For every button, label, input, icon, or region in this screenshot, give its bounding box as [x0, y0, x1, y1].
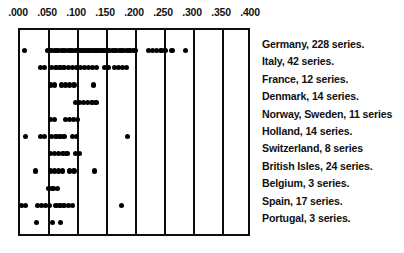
data-point	[42, 134, 47, 139]
dot-row	[20, 168, 248, 175]
data-point	[93, 100, 98, 105]
data-point	[77, 151, 82, 156]
data-point	[119, 203, 124, 208]
legend-item: Holland, 14 series.	[262, 125, 352, 137]
legend-item: Switzerland, 8 series	[262, 142, 363, 154]
data-point	[47, 203, 52, 208]
data-point	[55, 186, 60, 191]
data-point	[64, 151, 69, 156]
data-point	[50, 220, 55, 225]
x-axis-tick-label: .000	[8, 6, 28, 18]
legend-item: Italy, 42 series.	[262, 55, 334, 67]
x-axis-tick-label: .150	[95, 6, 115, 18]
data-point	[23, 134, 28, 139]
data-point	[22, 48, 27, 53]
legend-item: Belgium, 3 series.	[262, 177, 349, 189]
data-point	[58, 220, 63, 225]
dot-row	[20, 220, 248, 227]
data-point	[70, 203, 75, 208]
data-point	[52, 117, 57, 122]
data-point	[61, 134, 66, 139]
x-axis-tick-label: .250	[153, 6, 173, 18]
legend-item: Germany, 228 series.	[262, 38, 364, 50]
data-point	[94, 65, 99, 70]
dot-row	[20, 82, 248, 89]
x-axis-tick-label: .050	[37, 6, 57, 18]
legend-item: Portugal, 3 series.	[262, 212, 350, 224]
data-point	[52, 82, 57, 87]
data-point	[162, 48, 167, 53]
dot-row	[20, 186, 248, 193]
legend-item: British Isles, 24 series.	[262, 160, 373, 172]
x-axis-tick-labels: .000.050.100.150.200.250.300.350.400	[0, 6, 404, 22]
data-point	[169, 48, 174, 53]
dot-row	[20, 151, 248, 158]
x-axis-tick-label: .300	[182, 6, 202, 18]
legend-item: Denmark, 14 series.	[262, 90, 359, 102]
dot-row	[20, 65, 248, 72]
x-axis-tick-label: .400	[240, 6, 260, 18]
data-point	[60, 168, 65, 173]
data-point	[71, 168, 76, 173]
data-point	[125, 134, 130, 139]
x-axis-tick-label: .350	[211, 6, 231, 18]
data-point	[33, 168, 38, 173]
data-point	[124, 65, 129, 70]
data-point	[183, 48, 188, 53]
data-point	[92, 168, 97, 173]
data-point	[71, 82, 76, 87]
dot-row	[20, 117, 248, 124]
legend-item: Norway, Sweden, 11 series	[262, 108, 392, 120]
dot-row	[20, 134, 248, 141]
legend-item: France, 12 series.	[262, 73, 348, 85]
plot-frame	[18, 28, 250, 236]
data-point	[23, 203, 28, 208]
legend-item: Spain, 17 series.	[262, 195, 342, 207]
data-point	[91, 82, 96, 87]
data-point	[133, 48, 138, 53]
dot-row	[20, 100, 248, 107]
data-point	[75, 117, 80, 122]
data-point	[34, 220, 39, 225]
data-point	[106, 65, 111, 70]
x-axis-tick-label: .100	[66, 6, 86, 18]
data-point	[42, 65, 47, 70]
dot-row	[20, 203, 248, 210]
x-axis-tick-label: .200	[124, 6, 144, 18]
data-point	[74, 134, 79, 139]
dot-row	[20, 48, 248, 55]
dot-strip-chart-figure: .000.050.100.150.200.250.300.350.400 Ger…	[0, 0, 404, 253]
